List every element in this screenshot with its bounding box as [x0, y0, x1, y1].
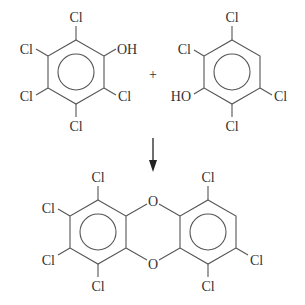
plus-sign: +	[149, 67, 157, 82]
reactant-1-molecule: Cl Cl Cl Cl Cl OH	[20, 10, 137, 134]
p-right-cl-top: Cl	[201, 170, 214, 185]
r1-cl-lower-left: Cl	[20, 89, 33, 104]
r1-cl-bottom: Cl	[69, 119, 82, 134]
r2-ho: HO	[171, 89, 191, 104]
r1-cl-upper-left: Cl	[20, 42, 33, 57]
p-left-cl-top: Cl	[91, 170, 104, 185]
r2-cl-bottom: Cl	[225, 119, 238, 134]
oxygen-top: O	[148, 194, 158, 209]
p-right-cl-lower-right: Cl	[250, 253, 263, 268]
r1-oh: OH	[117, 42, 137, 57]
r2-cl-top: Cl	[225, 10, 238, 25]
oxygen-bottom: O	[148, 257, 158, 272]
p-left-cl-upper-left: Cl	[42, 201, 55, 216]
r2-cl-upper-left: Cl	[178, 42, 191, 57]
r1-cl-lower-right: Cl	[118, 89, 131, 104]
reactant-2-molecule: Cl Cl HO Cl Cl	[171, 10, 288, 134]
p-left-cl-lower-left: Cl	[42, 253, 55, 268]
reaction-arrow-down-icon	[149, 138, 157, 172]
p-left-cl-bottom: Cl	[91, 279, 104, 294]
reaction-diagram: Cl Cl Cl Cl Cl OH + Cl Cl HO Cl Cl	[0, 0, 305, 305]
product-molecule: O O Cl Cl Cl Cl Cl Cl Cl	[42, 170, 264, 294]
r2-cl-lower-right: Cl	[274, 89, 287, 104]
p-right-cl-bottom: Cl	[201, 279, 214, 294]
r1-cl-top: Cl	[69, 10, 82, 25]
